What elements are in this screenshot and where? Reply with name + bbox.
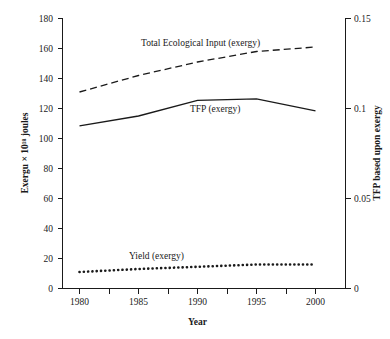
x-tick-label: 1990: [188, 297, 207, 307]
right-tick-label: 0.1: [354, 104, 366, 114]
series-annotation-tfp: TFP (exergy): [190, 104, 240, 115]
left-tick-label: 140: [39, 74, 54, 84]
series-annotation-total-ecological-input: Total Ecological Input (exergy): [141, 38, 260, 49]
left-tick-label: 160: [39, 44, 54, 54]
left-tick-label: 100: [39, 134, 54, 144]
x-axis-title: Year: [188, 317, 208, 327]
chart-svg: 180 160 140 120 100 80 60 40 20 0 0.15 0…: [0, 0, 390, 339]
left-tick-label: 120: [39, 104, 54, 114]
x-tick-label: 2000: [306, 297, 325, 307]
left-tick-label: 80: [44, 164, 54, 174]
x-tick-label: 1985: [129, 297, 148, 307]
left-tick-label: 0: [48, 284, 53, 294]
left-tick-label: 60: [44, 194, 54, 204]
x-tick-label: 1980: [70, 297, 89, 307]
y-axis-title: Exergu × 10¹⁸ joules: [20, 112, 30, 193]
right-tick-label: 0.05: [354, 194, 371, 204]
left-tick-label: 180: [39, 14, 54, 24]
left-tick-label: 20: [44, 254, 54, 264]
series-annotation-yield: Yield (exergy): [129, 251, 184, 262]
x-tick-label: 1995: [247, 297, 266, 307]
y2-axis-title: TFP based upon exergy: [372, 105, 382, 201]
left-tick-label: 40: [44, 224, 54, 234]
right-tick-label: 0.15: [354, 14, 371, 24]
right-tick-label: 0: [354, 284, 359, 294]
chart-figure: 180 160 140 120 100 80 60 40 20 0 0.15 0…: [0, 0, 390, 339]
